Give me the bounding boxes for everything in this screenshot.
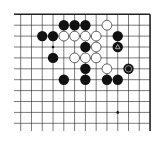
black-stone[interactable] <box>59 20 69 30</box>
black-stone[interactable] <box>80 64 90 74</box>
black-stone[interactable] <box>102 75 112 85</box>
go-board[interactable] <box>0 0 163 147</box>
black-stone[interactable] <box>113 31 123 41</box>
star-point-icon <box>116 111 119 114</box>
white-stone[interactable] <box>80 31 90 41</box>
white-stone[interactable] <box>102 64 112 74</box>
black-stone[interactable] <box>113 75 123 85</box>
black-stone[interactable] <box>80 20 90 30</box>
black-stone[interactable] <box>37 31 47 41</box>
star-point-icon <box>52 46 55 49</box>
black-stone[interactable] <box>123 64 133 74</box>
white-stone[interactable] <box>91 31 101 41</box>
white-stone[interactable] <box>70 31 80 41</box>
black-stone[interactable] <box>59 75 69 85</box>
white-stone[interactable] <box>91 42 101 52</box>
black-stone[interactable] <box>48 31 58 41</box>
white-stone[interactable] <box>59 31 69 41</box>
black-stone[interactable] <box>113 42 123 52</box>
black-stone[interactable] <box>69 20 79 30</box>
black-stone[interactable] <box>80 75 90 85</box>
black-stone[interactable] <box>48 53 58 63</box>
white-stone[interactable] <box>70 53 80 63</box>
black-stone[interactable] <box>80 42 90 52</box>
white-stone[interactable] <box>80 53 90 63</box>
white-stone[interactable] <box>102 20 112 30</box>
white-stone[interactable] <box>91 53 101 63</box>
